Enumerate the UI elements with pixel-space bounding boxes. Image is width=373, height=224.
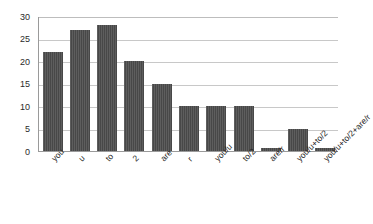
- x-axis-tick-label: 2: [131, 154, 141, 164]
- x-axis-tick-label: r: [186, 155, 194, 163]
- x-axis-tick-label: u: [77, 154, 87, 164]
- bar: [70, 30, 90, 152]
- y-axis-tick-label: 20: [20, 58, 30, 67]
- bar: [124, 61, 144, 151]
- bar: [43, 52, 63, 151]
- y-axis-tick-label: 5: [25, 125, 30, 134]
- y-axis-tick-label: 15: [20, 80, 30, 89]
- x-axis-tick-label: to: [104, 152, 115, 163]
- bars-layer: [39, 17, 338, 151]
- bar: [179, 106, 199, 151]
- y-axis-tick-label: 30: [20, 13, 30, 22]
- y-axis-tick-label: 25: [20, 35, 30, 44]
- y-axis-tick-label: 10: [20, 103, 30, 112]
- bar: [152, 84, 172, 152]
- bar: [97, 25, 117, 151]
- y-axis-tick-label: 0: [25, 148, 30, 157]
- plot-area: [38, 17, 338, 152]
- y-axis: 30 25 20 15 10 5 0: [0, 0, 34, 224]
- bar: [234, 106, 254, 151]
